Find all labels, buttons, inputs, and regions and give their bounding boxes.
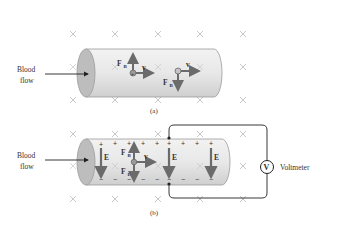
svg-text:−: − <box>195 176 199 183</box>
positive-charges-top: + + + + + + + + + <box>99 140 213 148</box>
svg-text:+: + <box>167 140 171 147</box>
svg-text:−: − <box>127 176 131 183</box>
svg-text:+: + <box>141 140 145 147</box>
svg-text:E: E <box>104 153 109 162</box>
svg-text:+: + <box>99 141 103 148</box>
blood-flow-label-a-line1: Blood <box>17 65 36 74</box>
svg-text:F: F <box>117 59 122 68</box>
svg-text:v: v <box>144 152 148 161</box>
svg-text:+: + <box>155 140 159 147</box>
svg-text:−: − <box>99 176 103 183</box>
svg-text:+: + <box>195 140 199 147</box>
blood-flow-label-b-line2: flow <box>20 162 34 171</box>
svg-text:−: − <box>209 176 213 183</box>
svg-text:−: − <box>113 176 117 183</box>
panel-a: Blood flow + F B v F B v (a) <box>17 31 246 115</box>
voltmeter-symbol: V <box>264 163 270 172</box>
svg-text:F: F <box>163 78 168 87</box>
svg-text:E: E <box>214 153 219 162</box>
svg-text:−: − <box>155 176 159 183</box>
caption-a: (a) <box>150 107 158 115</box>
svg-text:F: F <box>121 148 126 157</box>
voltmeter-label: Voltmeter <box>280 163 310 172</box>
svg-text:−: − <box>167 176 171 183</box>
svg-text:+: + <box>127 140 131 147</box>
magnetic-flowmeter-figure: Blood flow + F B v F B v (a) <box>0 0 338 231</box>
svg-text:F: F <box>121 167 126 176</box>
panel-b: + + + + + + + + + − − − − − − − − − E <box>17 125 310 217</box>
blood-flow-label-a-line2: flow <box>20 76 34 85</box>
negative-charges-bottom: − − − − − − − − − <box>99 176 213 183</box>
voltmeter: V Voltmeter <box>261 161 310 174</box>
svg-text:+: + <box>113 140 117 147</box>
svg-text:E: E <box>172 153 177 162</box>
svg-text:−: − <box>141 176 145 183</box>
blood-flow-label-b-line1: Blood <box>17 151 36 160</box>
svg-text:+: + <box>209 140 213 147</box>
cross-icon <box>70 31 76 37</box>
svg-text:+: + <box>181 140 185 147</box>
svg-text:+: + <box>131 71 134 77</box>
svg-text:v: v <box>142 63 146 72</box>
svg-text:−: − <box>181 176 185 183</box>
svg-text:v: v <box>186 60 190 69</box>
caption-b: (b) <box>150 209 159 217</box>
